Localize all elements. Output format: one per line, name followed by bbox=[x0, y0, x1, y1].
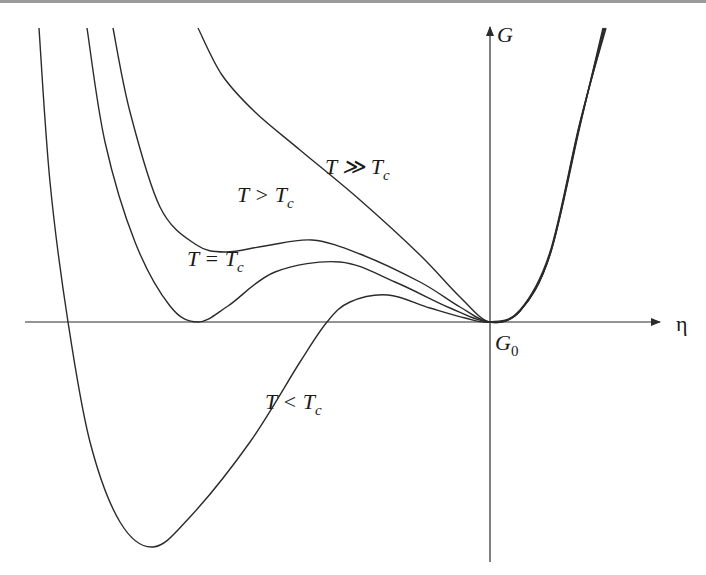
series-label-main: T > T bbox=[237, 182, 289, 207]
series-label-t-greater: T > Tc bbox=[237, 182, 294, 211]
series-label-t-less: T < Tc bbox=[265, 389, 322, 418]
origin-label-sub: 0 bbox=[511, 343, 519, 359]
series-label-main: T < T bbox=[265, 389, 317, 414]
series-label-sub: c bbox=[315, 402, 322, 418]
g-axis-label: G bbox=[497, 22, 513, 47]
series-label-t-equal: T = Tc bbox=[187, 246, 244, 275]
curve-t-less-than-tc bbox=[39, 28, 603, 547]
origin-label-main: G bbox=[495, 330, 511, 355]
series-label-t-much-greater: T ≫ Tc bbox=[325, 154, 390, 183]
curves-group bbox=[39, 28, 606, 547]
series-label-sub: c bbox=[237, 259, 244, 275]
origin-label: G0 bbox=[495, 330, 518, 359]
curve-t-much-greater-than-tc bbox=[198, 28, 606, 323]
eta-axis-label: η bbox=[676, 311, 688, 336]
series-label-main: T ≫ T bbox=[325, 154, 385, 179]
series-label-sub: c bbox=[383, 167, 390, 183]
series-label-sub: c bbox=[287, 195, 294, 211]
series-label-main: T = T bbox=[187, 246, 239, 271]
landau-free-energy-chart: G η G0 T ≫ Tc T > Tc T = Tc T < Tc bbox=[0, 0, 706, 575]
